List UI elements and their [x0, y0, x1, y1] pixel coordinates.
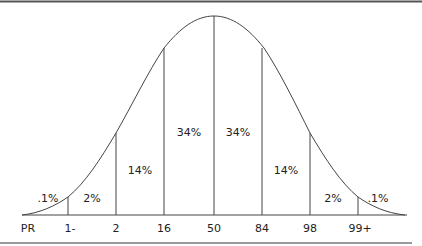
tick-84: 84 — [255, 222, 269, 235]
tick-99plus: 99+ — [348, 222, 371, 235]
area-left-2: 2% — [83, 192, 100, 205]
tick-1: 1- — [65, 222, 76, 235]
area-right-2: 2% — [324, 192, 341, 205]
tick-98: 98 — [303, 222, 317, 235]
tick-16: 16 — [157, 222, 171, 235]
area-right-34: 34% — [226, 126, 250, 139]
tick-2: 2 — [113, 222, 120, 235]
normal-curve-diagram: .1% 2% 14% 34% 34% 14% 2% .1% PR 1- 2 16… — [0, 0, 422, 246]
tick-50: 50 — [207, 222, 221, 235]
area-right-14: 14% — [274, 164, 298, 177]
axis-label-pr: PR — [21, 222, 36, 235]
area-far-left: .1% — [38, 192, 59, 205]
area-left-34: 34% — [177, 126, 201, 139]
area-far-right: .1% — [368, 192, 389, 205]
area-left-14: 14% — [128, 164, 152, 177]
